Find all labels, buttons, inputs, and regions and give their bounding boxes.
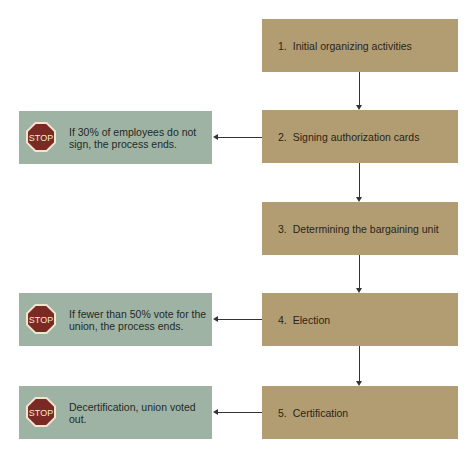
- stop-box-3: STOP Decertification, union voted out.: [19, 386, 212, 439]
- arrow-head-down-icon: [356, 381, 362, 386]
- svg-text:STOP: STOP: [29, 315, 53, 325]
- arrow-head-down-icon: [356, 197, 362, 202]
- step-2-box: 2. Signing authorization cards: [262, 110, 458, 163]
- svg-text:STOP: STOP: [29, 408, 53, 418]
- stop-box-1: STOP If 30% of employees do not sign, th…: [19, 111, 212, 164]
- stop-sign-icon: STOP: [25, 396, 57, 428]
- arrow-1-to-2: [359, 72, 360, 105]
- step-number: 1.: [278, 40, 287, 52]
- stop-sign-icon: STOP: [25, 303, 57, 335]
- stop-sign-icon: STOP: [25, 121, 57, 153]
- arrow-head-left-icon: [213, 409, 218, 415]
- svg-text:STOP: STOP: [29, 133, 53, 143]
- step-label: Determining the bargaining unit: [293, 223, 439, 235]
- step-number: 4.: [278, 314, 287, 326]
- arrow-head-down-icon: [356, 105, 362, 110]
- stop-text: If 30% of employees do not sign, the pro…: [69, 111, 209, 164]
- stop-text: If fewer than 50% vote for the union, th…: [69, 293, 209, 346]
- stop-text: Decertification, union voted out.: [69, 386, 209, 439]
- stop-box-2: STOP If fewer than 50% vote for the unio…: [19, 293, 212, 346]
- arrow-head-down-icon: [356, 288, 362, 293]
- arrow-2-to-stop: [218, 137, 262, 138]
- step-1-box: 1. Initial organizing activities: [262, 19, 458, 72]
- step-5-box: 5. Certification: [262, 386, 458, 439]
- arrow-5-to-stop: [218, 412, 262, 413]
- step-number: 3.: [278, 223, 287, 235]
- step-label: Initial organizing activities: [293, 40, 412, 52]
- step-label: Signing authorization cards: [293, 131, 420, 143]
- arrow-2-to-3: [359, 163, 360, 197]
- arrow-head-left-icon: [213, 316, 218, 322]
- step-number: 5.: [278, 407, 287, 419]
- arrow-3-to-4: [359, 255, 360, 288]
- arrow-4-to-5: [359, 346, 360, 381]
- arrow-4-to-stop: [218, 319, 262, 320]
- step-4-box: 4. Election: [262, 293, 458, 346]
- step-number: 2.: [278, 131, 287, 143]
- step-label: Election: [293, 314, 330, 326]
- step-label: Certification: [293, 407, 348, 419]
- step-3-box: 3. Determining the bargaining unit: [262, 202, 458, 255]
- arrow-head-left-icon: [213, 134, 218, 140]
